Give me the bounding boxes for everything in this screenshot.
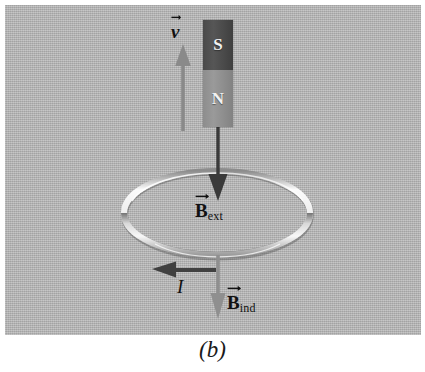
magnet-north-pole: N bbox=[203, 70, 233, 127]
b-external-subscript: ext bbox=[208, 209, 223, 223]
magnet-north-pole-label: N bbox=[212, 89, 224, 109]
velocity-label: v bbox=[171, 22, 179, 41]
b-induced-subscript: ind bbox=[240, 301, 256, 315]
current-label: I bbox=[177, 277, 183, 296]
b-induced-label: B ind bbox=[227, 293, 256, 314]
b-external-label: B ext bbox=[195, 201, 223, 222]
figure-caption: (b) bbox=[0, 337, 425, 363]
bar-magnet: S N bbox=[203, 20, 233, 127]
b-external-symbol: B bbox=[195, 200, 208, 221]
magnet-south-pole: S bbox=[203, 20, 233, 70]
velocity-symbol: v bbox=[171, 21, 179, 42]
b-external-arrow bbox=[209, 127, 228, 201]
magnet-south-pole-label: S bbox=[213, 35, 222, 55]
diagram-panel: S N v bbox=[5, 5, 421, 335]
velocity-arrow bbox=[175, 44, 191, 131]
current-symbol: I bbox=[177, 276, 183, 297]
b-induced-symbol: B bbox=[227, 292, 240, 313]
physics-figure: S N v bbox=[0, 0, 425, 372]
induced-current-arrow bbox=[152, 262, 216, 278]
b-induced-arrow bbox=[211, 255, 226, 319]
